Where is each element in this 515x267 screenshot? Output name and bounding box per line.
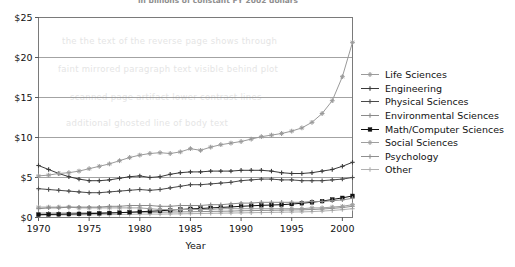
y-axis-tick-label: $15	[14, 92, 32, 103]
y-axis-tick-label: $0	[20, 212, 32, 223]
data-point	[138, 210, 142, 214]
x-axis-tick-label: 1970	[26, 223, 50, 234]
data-point	[67, 212, 71, 216]
data-point	[57, 212, 61, 216]
plot-frame	[39, 18, 353, 218]
data-point	[77, 212, 81, 216]
legend-item-label: Engineering	[385, 83, 442, 94]
legend-marker-icon	[360, 137, 380, 148]
legend-marker-icon	[360, 96, 380, 107]
legend-item-label: Environmental Sciences	[385, 110, 499, 121]
chart-legend: Life SciencesEngineeringPhysical Science…	[360, 68, 504, 177]
x-axis-title: Year	[184, 240, 205, 251]
series-line	[39, 162, 353, 180]
legend-item-label: Other	[385, 164, 412, 175]
legend-item-engineering[interactable]: Engineering	[360, 82, 504, 96]
legend-item-social-sciences[interactable]: Social Sciences	[360, 136, 504, 150]
legend-item-label: Life Sciences	[385, 69, 447, 80]
data-point	[97, 211, 101, 215]
series-engineering	[36, 160, 354, 183]
data-point	[368, 127, 372, 131]
series-physical-sciences	[36, 175, 354, 195]
legend-marker-icon	[360, 69, 380, 80]
legend-item-physical-sciences[interactable]: Physical Sciences	[360, 95, 504, 109]
legend-item-math-computer-sciences[interactable]: Math/Computer Sciences	[360, 122, 504, 136]
legend-item-label: Psychology	[385, 151, 438, 162]
y-axis-tick-label: $25	[14, 12, 32, 23]
x-axis-tick-label: 1995	[280, 223, 304, 234]
x-axis-tick-label: 1985	[178, 223, 202, 234]
data-point	[37, 213, 41, 217]
y-axis-tick-label: $20	[14, 52, 32, 63]
legend-item-life-sciences[interactable]: Life Sciences	[360, 68, 504, 82]
x-axis-tick-label: 1990	[229, 223, 253, 234]
legend-marker-icon	[360, 110, 380, 121]
legend-marker-icon	[360, 164, 380, 175]
legend-item-other[interactable]: Other	[360, 163, 504, 177]
y-axis-tick-label: $5	[20, 172, 32, 183]
series-line	[39, 42, 353, 176]
x-axis-tick-label: 2000	[330, 223, 354, 234]
legend-item-label: Physical Sciences	[385, 96, 468, 107]
data-point	[87, 212, 91, 216]
chart-figure: in billions of constant FY 2002 dollars …	[0, 0, 515, 267]
legend-marker-icon	[360, 124, 380, 135]
data-point	[108, 211, 112, 215]
series-life-sciences	[36, 40, 355, 178]
y-axis-tick-label: $10	[14, 132, 32, 143]
legend-marker-icon	[360, 83, 380, 94]
series-line	[39, 198, 353, 208]
x-axis-tick-label: 1980	[128, 223, 152, 234]
x-axis-tick-label: 1975	[77, 223, 101, 234]
legend-marker-icon	[360, 151, 380, 162]
data-point	[118, 211, 122, 215]
legend-item-environmental-sciences[interactable]: Environmental Sciences	[360, 109, 504, 123]
legend-item-label: Math/Computer Sciences	[385, 124, 504, 135]
data-point	[47, 213, 51, 217]
legend-item-psychology[interactable]: Psychology	[360, 150, 504, 164]
data-point	[128, 210, 132, 214]
legend-item-label: Social Sciences	[385, 137, 458, 148]
